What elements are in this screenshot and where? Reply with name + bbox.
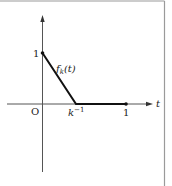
x-axis-arrowhead-icon	[146, 102, 153, 106]
function-label: fk(t)	[55, 63, 76, 76]
x-tick-label-one: 1	[123, 107, 129, 118]
y-tick-label-one: 1	[33, 48, 39, 59]
function-line	[43, 53, 127, 104]
y-axis-arrowhead-icon	[40, 15, 44, 22]
x-axis-label: t	[156, 98, 161, 109]
x-tick-label-k-inverse: k−1	[68, 106, 84, 118]
point-y-one	[41, 51, 45, 55]
function-diagram: 1 fk(t) O k−1 1 t	[0, 0, 172, 186]
point-x-one	[124, 102, 128, 106]
origin-label: O	[31, 106, 39, 117]
